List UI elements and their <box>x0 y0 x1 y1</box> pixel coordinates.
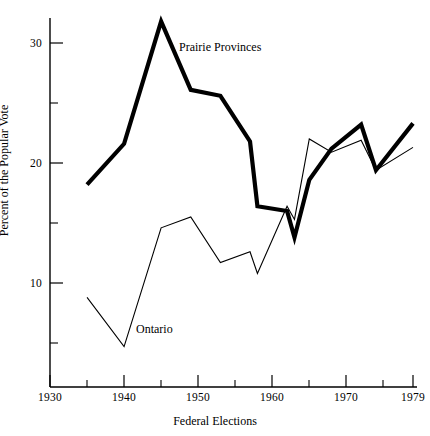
y-axis-major-ticks <box>50 43 63 283</box>
x-axis-minor-ticks <box>87 380 383 387</box>
y-tick-label-20: 20 <box>24 157 42 169</box>
x-tick-label-1979: 1979 <box>401 391 425 403</box>
series-line-ontario <box>87 139 413 347</box>
x-tick-label-1970: 1970 <box>334 391 358 403</box>
x-tick-label-1930: 1930 <box>38 391 62 403</box>
x-tick-label-1960: 1960 <box>260 391 284 403</box>
y-tick-label-30: 30 <box>24 37 42 49</box>
x-axis-title: Federal Elections <box>173 414 257 429</box>
line-chart: 30 20 10 1930 1940 1950 1960 1970 1979 F… <box>0 0 430 436</box>
y-axis-title: Percent of the Popular Vote <box>0 105 12 237</box>
series-label-ontario: Ontario <box>136 322 173 337</box>
x-tick-label-1940: 1940 <box>112 391 136 403</box>
y-tick-label-10: 10 <box>24 277 42 289</box>
chart-plot-area <box>0 0 430 436</box>
y-axis-minor-ticks <box>50 103 58 343</box>
x-tick-label-1950: 1950 <box>186 391 210 403</box>
series-label-prairie-provinces: Prairie Provinces <box>179 40 261 55</box>
x-axis-major-ticks <box>50 375 413 387</box>
